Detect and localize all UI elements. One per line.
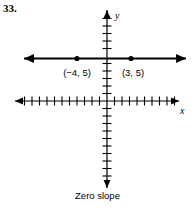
figure-caption: Zero slope	[0, 190, 195, 202]
point-label-right: (3, 5)	[122, 67, 144, 78]
point-label-left: (−4, 5)	[63, 67, 91, 78]
coordinate-plane-graph: (−4, 5) (3, 5) y x	[0, 0, 195, 208]
x-axis-left-arrowhead	[15, 98, 23, 105]
data-point-marker	[128, 56, 133, 61]
line-left-arrowhead	[24, 54, 34, 63]
data-point-marker	[74, 56, 79, 61]
y-axis-top-arrowhead	[104, 10, 111, 18]
plotted-line-zero-slope	[24, 54, 186, 63]
y-axis-label: y	[114, 10, 120, 21]
y-axis-bottom-arrowhead	[104, 180, 111, 188]
figure-container: 33.	[0, 0, 195, 208]
x-axis-label: x	[179, 105, 185, 116]
line-right-arrowhead	[176, 54, 186, 63]
y-axis	[103, 10, 112, 188]
x-axis	[15, 97, 179, 106]
